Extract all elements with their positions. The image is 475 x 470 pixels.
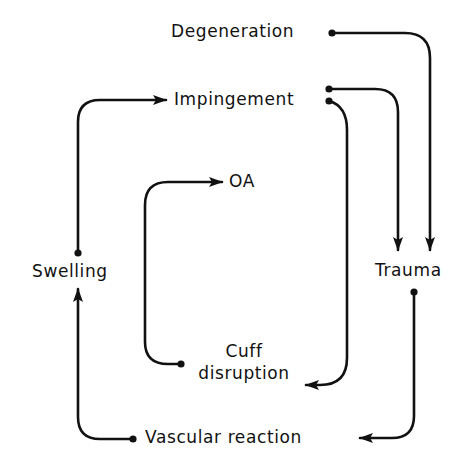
node-trauma: Trauma [375,262,442,279]
node-cuff-disruption-line2: disruption [184,362,304,384]
edge-swelling-to-impingement [78,100,166,253]
edge-impingement-to-trauma [329,89,398,250]
node-cuff-disruption-line1: Cuff [184,340,304,362]
edge-impingement-to-cuff-disruption [306,101,347,385]
node-vascular-reaction: Vascular reaction [145,429,302,446]
node-impingement: Impingement [174,91,294,108]
node-swelling: Swelling [32,263,108,280]
edge-vascular-reaction-to-swelling [78,289,133,439]
node-cuff-disruption: Cuff disruption [184,340,304,384]
diagram-canvas: Degeneration Impingement OA Swelling Tra… [0,0,475,470]
edge-cuff-disruption-to-oa [145,182,222,364]
diagram-connectors [0,0,475,470]
edge-trauma-to-vascular-reaction [360,292,414,438]
node-degeneration: Degeneration [171,23,294,40]
node-oa: OA [229,173,255,190]
